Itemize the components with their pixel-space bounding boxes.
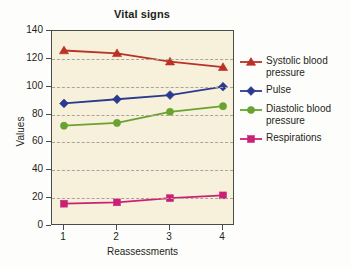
chart-title: Vital signs <box>50 8 234 20</box>
x-axis-tick-label: 1 <box>51 232 75 242</box>
gridline <box>52 170 233 171</box>
triangle-marker-icon <box>240 56 262 68</box>
gridline <box>52 142 233 143</box>
gridline <box>52 115 233 116</box>
circle-marker-icon <box>240 104 262 116</box>
series-layer <box>52 31 235 226</box>
legend-item[interactable]: Respirations <box>240 132 350 145</box>
y-axis-tick-label: 40 <box>32 164 43 174</box>
x-axis-tick <box>222 225 223 230</box>
y-axis: Values 020406080100120140 <box>0 30 51 225</box>
legend-label: Diastolic blood pressure <box>266 103 350 126</box>
x-axis-tick-label: 4 <box>210 232 234 242</box>
y-axis-tick-label: 60 <box>32 136 43 146</box>
x-axis-label: Reassessments <box>51 246 234 257</box>
x-axis-tick-label: 2 <box>104 232 128 242</box>
y-axis-tick-label: 100 <box>26 81 43 91</box>
y-axis-tick-label: 80 <box>32 109 43 119</box>
plot-inner <box>52 31 233 224</box>
gridline <box>52 87 233 88</box>
gridline <box>52 59 233 60</box>
legend-item[interactable]: Pulse <box>240 84 350 97</box>
legend-item[interactable]: Systolic blood pressure <box>240 55 350 78</box>
legend-label: Systolic blood pressure <box>266 55 350 78</box>
x-axis-tick <box>63 225 64 230</box>
series-line-1 <box>64 87 223 104</box>
legend-item[interactable]: Diastolic blood pressure <box>240 103 350 126</box>
y-axis-tick-label: 20 <box>32 192 43 202</box>
x-axis-tick-label: 3 <box>157 232 181 242</box>
series-line-2 <box>64 106 223 126</box>
x-axis-tick <box>169 225 170 230</box>
square-marker-icon <box>240 133 262 145</box>
plot-area <box>51 30 234 225</box>
gridline <box>52 198 233 199</box>
legend-label: Respirations <box>266 132 350 144</box>
x-axis: Reassessments 1234 <box>51 225 234 265</box>
series-line-3 <box>64 195 223 203</box>
y-axis-label: Values <box>15 92 26 172</box>
y-axis-tick-label: 0 <box>37 220 43 230</box>
y-axis-tick-label: 120 <box>26 53 43 63</box>
legend-label: Pulse <box>266 84 350 96</box>
chart-figure: Vital signs Values 020406080100120140 Re… <box>0 0 350 267</box>
diamond-marker-icon <box>240 85 262 97</box>
chart-legend: Systolic blood pressure Pulse Diastolic … <box>240 55 350 151</box>
x-axis-tick <box>116 225 117 230</box>
y-axis-tick-label: 140 <box>26 25 43 35</box>
